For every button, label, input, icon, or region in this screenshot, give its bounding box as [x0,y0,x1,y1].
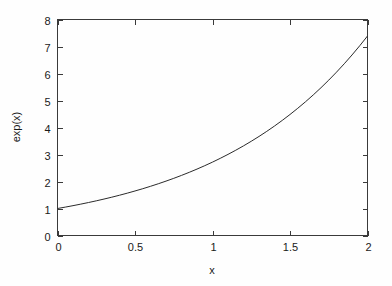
y-tick-label-group: 012345678 [44,15,50,243]
exp-plot: 012345678 00.511.52 x exp(x) [0,0,392,286]
exp-curve [58,36,368,209]
x-tick-label: 0 [55,241,61,253]
x-axis-title: x [209,264,215,276]
y-axis-title: exp(x) [10,112,22,143]
x-tick-label: 1 [210,241,216,253]
x-tick-label: 0.5 [128,241,143,253]
y-tick-label: 1 [44,204,50,216]
y-tick-label: 8 [44,15,50,27]
y-tick-label: 4 [44,123,50,135]
x-tick-label-group: 00.511.52 [55,241,371,253]
y-tick-label: 5 [44,96,50,108]
y-tick-label: 0 [44,231,50,243]
plot-frame [58,20,368,236]
y-tick-label: 6 [44,69,50,81]
y-tick-label: 7 [44,42,50,54]
x-tick-label: 1.5 [283,241,298,253]
chart-page: 012345678 00.511.52 x exp(x) [0,0,392,286]
tick-mark-group [58,20,369,237]
y-tick-label: 2 [44,177,50,189]
x-tick-label: 2 [365,241,371,253]
y-tick-label: 3 [44,150,50,162]
